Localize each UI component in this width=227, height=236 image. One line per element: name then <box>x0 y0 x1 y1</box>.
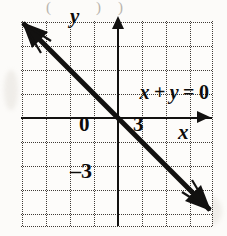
graph-figure: ( ) ) <box>0 0 227 236</box>
artifact-paren-a: ( <box>46 0 51 15</box>
x-axis-label: x <box>178 122 189 143</box>
equation-operator-plus: + <box>154 81 166 103</box>
equation-term-y: y <box>170 81 179 103</box>
artifact-paren-b: ) <box>96 0 101 15</box>
cropped-text-artifacts: ( ) ) <box>0 0 227 16</box>
artifact-paren-c: ) <box>118 0 123 15</box>
equation-term-x: x <box>140 81 150 103</box>
equation-label: x+y=0 <box>118 62 209 122</box>
origin-label: 0 <box>79 114 90 135</box>
y-axis-label: y <box>70 6 79 27</box>
y-tick-label-negative-3: –3 <box>70 160 92 182</box>
equation-operator-equals: = <box>183 81 195 103</box>
scan-smudge <box>4 70 18 110</box>
equation-right-side: 0 <box>199 81 209 103</box>
